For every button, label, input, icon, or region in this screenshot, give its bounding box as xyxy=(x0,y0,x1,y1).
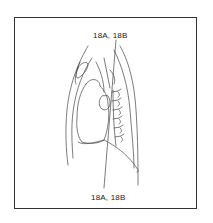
great-vessel-2 xyxy=(104,58,110,88)
anterior-chest-wall-outer xyxy=(66,46,88,165)
aortic-knob xyxy=(99,96,110,110)
diaphragm-line xyxy=(78,140,138,172)
section-plane-line xyxy=(104,40,116,188)
great-vessel-1 xyxy=(96,62,104,92)
vertebrae-markers xyxy=(112,89,124,137)
chest-lateral-drawing xyxy=(0,0,213,223)
sternum-loop xyxy=(76,62,88,78)
spine-line xyxy=(113,90,116,146)
sternum-outline xyxy=(75,62,80,84)
posterior-chest-wall-outer xyxy=(120,46,138,185)
